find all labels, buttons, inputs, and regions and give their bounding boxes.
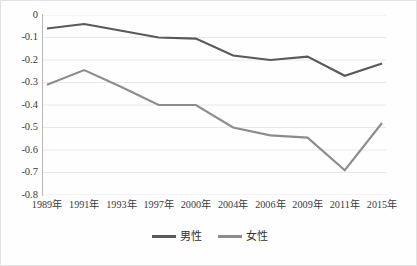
plot-svg (43, 15, 386, 195)
x-tick-label: 1993年 (106, 200, 136, 210)
y-tick-label: -0.4 (1, 100, 38, 111)
legend-label: 男性 (180, 231, 202, 242)
legend-swatch-icon (218, 235, 242, 238)
chart-legend: 男性女性 (1, 231, 417, 242)
y-tick-label: 0 (1, 10, 38, 21)
series-line-男性 (47, 24, 382, 76)
x-tick-label: 2004年 (218, 200, 248, 210)
x-tick-label: 2006年 (255, 200, 285, 210)
x-axis-labels: 1989年1991年1993年1997年2000年2004年2006年2009年… (43, 200, 386, 216)
series-lines (47, 24, 382, 170)
x-tick-label: 1989年 (32, 200, 62, 210)
y-axis-labels: 0-0.1-0.2-0.3-0.4-0.5-0.6-0.7-0.8 (1, 1, 38, 266)
x-tick-label: 2009年 (292, 200, 322, 210)
y-tick-label: -0.5 (1, 122, 38, 133)
plot-area (43, 15, 386, 195)
series-line-女性 (47, 70, 382, 170)
legend-item-男性[interactable]: 男性 (152, 231, 202, 242)
gridlines (43, 15, 386, 195)
y-tick-label: -0.2 (1, 55, 38, 66)
line-chart: 0-0.1-0.2-0.3-0.4-0.5-0.6-0.7-0.8 1989年1… (0, 0, 417, 266)
y-tick-label: -0.6 (1, 145, 38, 156)
x-tick-label: 1997年 (143, 200, 173, 210)
legend-item-女性[interactable]: 女性 (218, 231, 268, 242)
y-tick-label: -0.1 (1, 32, 38, 43)
legend-label: 女性 (246, 231, 268, 242)
x-tick-label: 2011年 (330, 200, 360, 210)
x-tick-label: 2000年 (181, 200, 211, 210)
y-tick-label: -0.7 (1, 167, 38, 178)
x-tick-label: 2015年 (367, 200, 397, 210)
x-tick-label: 1991年 (69, 200, 99, 210)
legend-swatch-icon (152, 235, 176, 238)
y-tick-label: -0.3 (1, 77, 38, 88)
